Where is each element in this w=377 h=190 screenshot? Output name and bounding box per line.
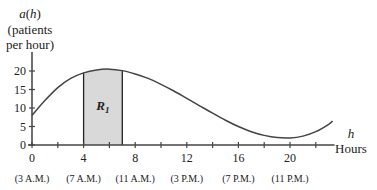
- y-tick-label: 5: [20, 120, 26, 134]
- x-tick-label: 12: [181, 151, 193, 165]
- y-label-units-line1: (patients: [8, 22, 53, 37]
- y-tick-label: 15: [14, 83, 26, 97]
- y-axis-label: a(h)(patientsper hour): [6, 6, 54, 52]
- x-axis-ticks: 0(3 A.M.)4(7 A.M.)8(11 A.M.)12(3 P.M.)16…: [15, 142, 316, 185]
- y-tick-label: 10: [14, 101, 26, 115]
- patient-arrival-chart: a(h)(patientsper hour) 0(3 A.M.)4(7 A.M.…: [0, 0, 377, 190]
- y-label-units-line2: per hour): [6, 37, 54, 52]
- x-tick-time-label: (7 A.M.): [66, 173, 101, 185]
- y-tick-label: 20: [14, 64, 26, 78]
- x-tick-label: 4: [81, 151, 87, 165]
- x-label-variable: h: [348, 126, 355, 141]
- x-tick-label: 0: [29, 151, 35, 165]
- rate-curve: [32, 69, 333, 138]
- x-tick-time-label: (11 A.M.): [116, 173, 155, 185]
- x-tick-time-label: (3 P.M.): [171, 173, 204, 185]
- x-label-units: Hours: [335, 141, 367, 156]
- x-tick-time-label: (11 P.M.): [271, 173, 308, 185]
- x-tick-time-label: (3 A.M.): [15, 173, 50, 185]
- x-tick-label: 8: [132, 151, 138, 165]
- x-tick-label: 20: [284, 151, 296, 165]
- y-tick-label: 0: [20, 138, 26, 152]
- x-tick-time-label: (7 P.M.): [222, 173, 255, 185]
- x-axis-label: hHours: [335, 126, 367, 156]
- x-tick-label: 16: [232, 151, 244, 165]
- y-label-function: a(h): [19, 6, 41, 21]
